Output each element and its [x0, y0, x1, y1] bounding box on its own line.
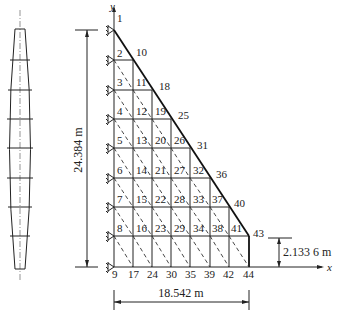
- node-label: 2: [117, 47, 123, 59]
- node-label: 20: [155, 134, 167, 146]
- fixed-support-icons: [106, 25, 114, 273]
- node-label: 31: [197, 139, 208, 151]
- node-label: 33: [193, 193, 205, 205]
- node-label: 39: [204, 268, 216, 280]
- node-label: 38: [212, 222, 224, 234]
- height-label: 24.384 m: [71, 127, 85, 173]
- node-label: 6: [117, 164, 123, 176]
- node-label: 24: [147, 268, 159, 280]
- node-label: 15: [136, 193, 148, 205]
- y-axis-label: y: [109, 0, 115, 12]
- node-label: 18: [159, 80, 171, 92]
- node-label: 8: [117, 222, 123, 234]
- height-dimension: 24.384 m: [71, 30, 98, 267]
- node-label: 29: [174, 222, 186, 234]
- downstream-face: [114, 30, 249, 236]
- base-label: 18.542 m: [158, 286, 204, 300]
- node-label: 26: [174, 134, 186, 146]
- node-label: 28: [174, 193, 186, 205]
- plan-view-shape: [7, 10, 33, 282]
- node-label: 21: [155, 164, 166, 176]
- node-label: 42: [223, 268, 234, 280]
- x-axis-arrow-icon: [317, 265, 324, 269]
- node-label: 22: [155, 193, 166, 205]
- crest-height-dimension: 2.133 6 m: [268, 238, 332, 267]
- node-label: 13: [136, 134, 148, 146]
- node-label: 10: [136, 46, 148, 58]
- node-label: 27: [174, 164, 186, 176]
- node-label: 19: [155, 105, 167, 117]
- node-label: 11: [136, 76, 147, 88]
- node-label: 32: [193, 164, 204, 176]
- node-label: 12: [136, 105, 147, 117]
- node-label: 25: [178, 109, 190, 121]
- node-label: 34: [193, 222, 205, 234]
- node-label: 5: [117, 134, 123, 146]
- node-label: 3: [117, 76, 123, 88]
- node-label: 9: [112, 268, 118, 280]
- crest-height-label: 2.133 6 m: [283, 245, 332, 259]
- node-label: 16: [136, 222, 148, 234]
- node-label: 35: [185, 268, 197, 280]
- node-label: 40: [234, 197, 246, 209]
- node-label: 41: [231, 222, 242, 234]
- fem-diagram: 24.384 m y x: [0, 0, 338, 335]
- node-label: 43: [253, 227, 265, 239]
- base-dimension: 18.542 m: [114, 286, 249, 310]
- node-labels: 1210311184121925513202631614212732367152…: [112, 12, 265, 280]
- node-label: 37: [212, 193, 224, 205]
- x-axis-label: x: [326, 261, 332, 273]
- node-label: 23: [155, 222, 167, 234]
- node-label: 14: [136, 164, 148, 176]
- node-label: 36: [216, 168, 228, 180]
- node-label: 30: [166, 268, 178, 280]
- node-label: 1: [117, 12, 123, 24]
- node-label: 7: [117, 193, 123, 205]
- node-label: 4: [117, 105, 123, 117]
- node-label: 17: [128, 268, 140, 280]
- node-label: 44: [243, 268, 255, 280]
